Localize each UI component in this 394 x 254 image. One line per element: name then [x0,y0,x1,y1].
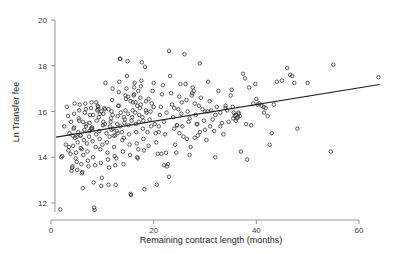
data-point [104,81,108,85]
data-point [208,99,212,103]
data-point [173,143,177,147]
data-point [147,144,151,148]
data-point [143,188,147,192]
data-point [124,97,128,101]
data-point [94,145,98,149]
data-point [178,131,182,135]
data-point [182,135,186,139]
data-point [280,79,284,83]
data-point [155,183,159,187]
x-axis-ticks: 0204060 [49,220,364,235]
data-point [275,80,279,84]
data-point [77,109,81,113]
data-point [106,158,110,162]
data-point [160,93,164,97]
data-point [247,86,251,90]
data-point [167,175,171,179]
data-point [306,81,310,85]
data-point [212,129,216,133]
data-point [119,111,123,115]
data-point [127,133,131,137]
data-point [193,136,197,140]
data-point [188,153,192,157]
data-point [185,137,189,141]
data-point [107,183,111,187]
data-point [84,125,88,128]
data-point [105,131,109,135]
data-point [82,138,86,142]
data-point [147,97,151,101]
data-point [108,135,112,139]
data-point [114,183,118,187]
x-tick-label: 40 [252,226,261,235]
data-point [224,104,228,108]
data-point [164,151,168,155]
data-point [172,106,176,110]
data-point [144,109,148,113]
data-point [159,105,163,109]
data-point [163,133,167,137]
y-axis-ticks: 1214161820 [38,16,55,208]
data-point [89,106,93,110]
data-point [169,91,173,95]
data-point [139,96,143,100]
data-point [285,66,289,70]
data-point [135,104,139,108]
data-point [139,103,143,107]
data-point [113,164,117,168]
data-point [178,95,182,99]
data-point [82,153,86,157]
data-point [165,111,169,115]
data-point [329,150,333,154]
data-point [130,115,134,119]
data-point [110,98,114,102]
data-point [84,102,88,106]
x-tick-label: 60 [355,226,364,235]
data-point [67,149,71,153]
data-point [262,111,266,115]
data-point [74,157,78,161]
y-tick-label: 14 [38,153,47,162]
data-point [91,156,95,160]
data-point [175,151,179,155]
data-point [78,103,82,107]
data-point [76,141,80,145]
data-point [133,111,137,115]
data-point [139,85,143,89]
data-point [219,125,223,128]
data-point [94,101,98,105]
data-point [75,160,79,164]
data-point [125,87,128,91]
data-point [158,113,162,117]
data-point [93,208,97,212]
data-points-layer [58,49,380,211]
data-point [214,113,218,117]
x-tick-label: 20 [149,226,158,235]
data-point [111,87,115,91]
data-point [75,168,79,172]
data-point [69,152,73,156]
data-point [198,130,202,134]
data-point [106,151,110,155]
data-point [266,114,270,118]
data-point [98,137,102,141]
data-point [63,125,67,128]
data-point [121,150,125,154]
data-point [219,111,223,115]
data-point [67,145,71,149]
data-point [108,125,112,128]
data-point [120,130,124,134]
data-point [74,151,78,155]
y-axis-title: Ln Transfer fee [11,82,21,143]
data-point [172,127,176,131]
data-point [142,119,146,123]
data-point [134,130,138,134]
data-point [146,130,150,134]
data-point [243,77,247,81]
data-point [183,53,187,57]
data-point [87,135,91,139]
data-point [255,97,259,101]
data-point [128,143,132,147]
data-point [126,59,129,63]
data-point [117,90,121,94]
